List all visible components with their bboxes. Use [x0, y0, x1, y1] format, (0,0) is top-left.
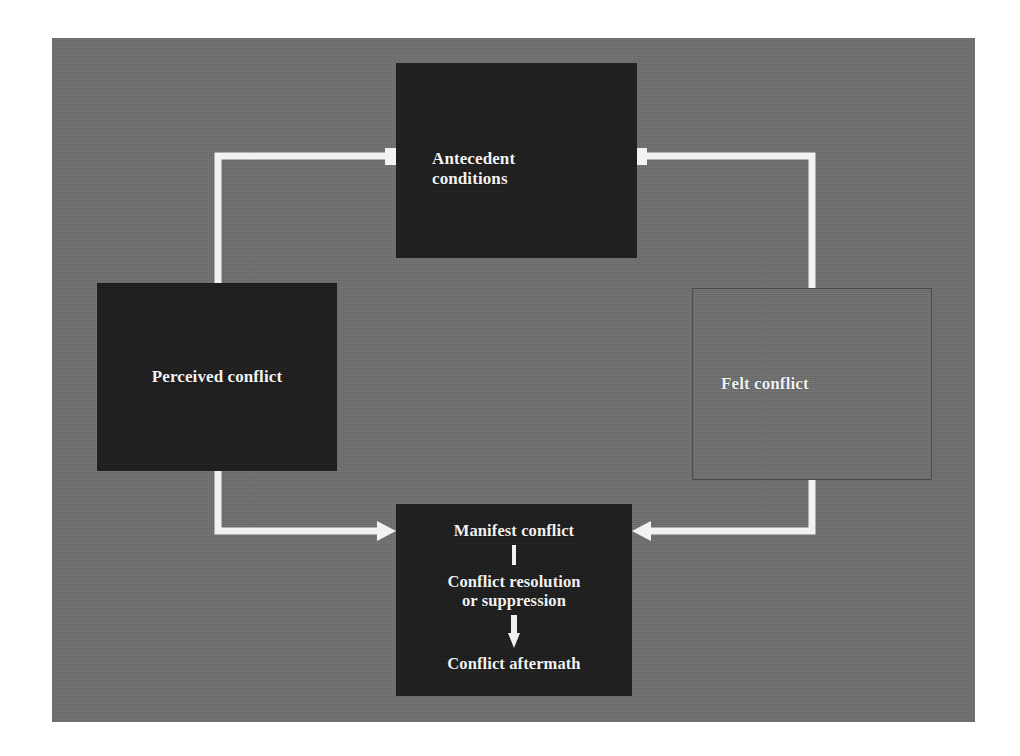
connector-antecedent-to-felt — [638, 156, 812, 288]
connector-resolution-to-aftermath — [508, 615, 520, 648]
node-manifest-conflict[interactable]: Manifest conflict Conflict resolution or… — [396, 504, 632, 696]
arrowhead-perceived-to-manifest — [377, 521, 396, 541]
connector-perceived-to-manifest — [218, 471, 385, 531]
node-perceived-conflict-label: Perceived conflict — [152, 367, 282, 386]
diagram-panel: Antecedent conditions Perceived conflict… — [52, 38, 975, 722]
connector-antecedent-to-perceived — [218, 156, 396, 284]
node-antecedent-conditions-label: Antecedent conditions — [432, 149, 515, 187]
node-felt-conflict[interactable]: Felt conflict — [692, 288, 932, 480]
arrowhead-down-icon — [508, 633, 520, 648]
connector-manifest-to-resolution — [512, 545, 516, 565]
node-manifest-conflict-label: Manifest conflict — [454, 522, 574, 540]
node-perceived-conflict[interactable]: Perceived conflict — [97, 283, 337, 471]
arrow-shaft — [511, 615, 517, 635]
node-felt-conflict-label: Felt conflict — [721, 374, 809, 393]
node-conflict-aftermath-label: Conflict aftermath — [447, 655, 580, 673]
diagram-canvas: Antecedent conditions Perceived conflict… — [0, 0, 1020, 756]
node-antecedent-conditions[interactable]: Antecedent conditions — [396, 63, 637, 258]
connector-felt-to-manifest — [643, 480, 812, 531]
node-conflict-resolution-label: Conflict resolution or suppression — [447, 573, 580, 610]
arrowhead-felt-to-manifest — [632, 521, 651, 541]
